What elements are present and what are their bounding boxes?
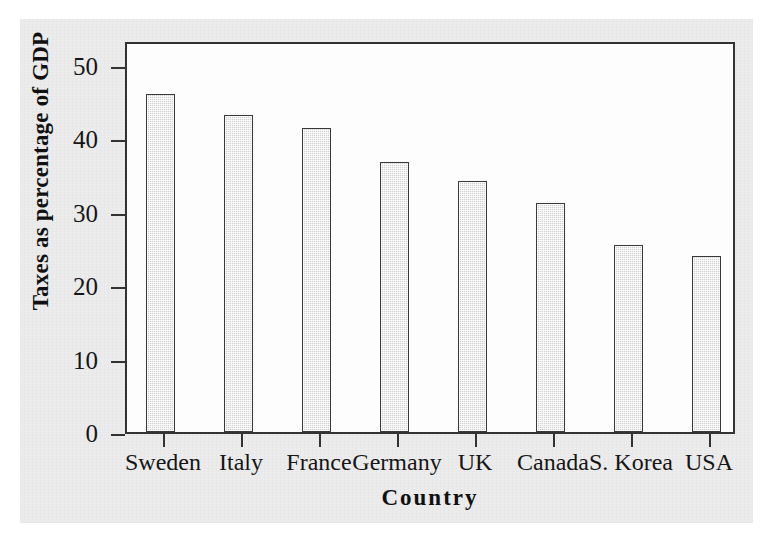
x-tick-sweden — [163, 434, 165, 447]
y-tick-label-50: 50 — [8, 54, 98, 79]
x-tick-uk — [475, 434, 477, 447]
y-tick-label-30: 30 — [8, 201, 98, 226]
x-tick-usa — [709, 434, 711, 447]
bar-canada[interactable] — [536, 203, 565, 432]
x-tick-italy — [241, 434, 243, 447]
bar-france[interactable] — [302, 128, 331, 432]
figure-root: Taxes as percentage of GDP 50 40 30 20 1… — [0, 0, 775, 538]
bar-uk[interactable] — [458, 181, 487, 432]
bar-s-korea[interactable] — [614, 245, 643, 432]
x-tick-canada — [553, 434, 555, 447]
y-tick-10 — [111, 361, 125, 363]
y-tick-50 — [111, 67, 125, 69]
x-axis-title: Country — [125, 485, 735, 511]
x-tick-s-korea — [631, 434, 633, 447]
y-tick-label-20: 20 — [8, 274, 98, 299]
bar-germany[interactable] — [380, 162, 409, 432]
bar-sweden[interactable] — [146, 94, 175, 432]
bar-usa[interactable] — [692, 256, 721, 432]
y-tick-label-40: 40 — [8, 127, 98, 152]
y-tick-label-0: 0 — [8, 421, 98, 446]
plot-area — [125, 42, 735, 434]
bar-italy[interactable] — [224, 115, 253, 432]
y-tick-30 — [111, 214, 125, 216]
x-tick-label-usa: USA — [639, 450, 775, 474]
x-tick-germany — [397, 434, 399, 447]
x-tick-france — [319, 434, 321, 447]
y-tick-40 — [111, 140, 125, 142]
y-tick-20 — [111, 287, 125, 289]
y-tick-0 — [111, 434, 125, 436]
y-tick-label-10: 10 — [8, 348, 98, 373]
